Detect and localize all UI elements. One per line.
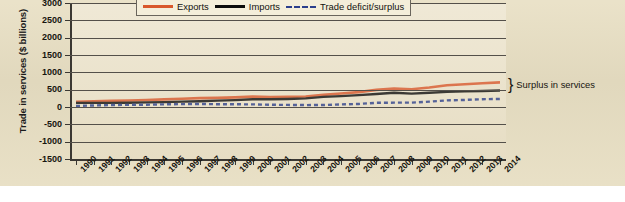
- chart-legend: Exports Imports Trade deficit/surplus: [136, 0, 411, 16]
- gridline: [70, 107, 506, 108]
- y-axis-tick-label: -500: [28, 119, 62, 129]
- gridline: [70, 20, 506, 21]
- y-axis-tick: [65, 124, 70, 125]
- gridline: [70, 142, 506, 143]
- gridline: [70, 38, 506, 39]
- page-margin: [0, 186, 625, 202]
- y-axis-tick-label: 500: [28, 84, 62, 94]
- legend-swatch-deficit-icon: [286, 6, 316, 8]
- surplus-annotation-label: Surplus in services: [516, 79, 595, 90]
- legend-label-imports: Imports: [249, 1, 280, 12]
- legend-swatch-imports-icon: [215, 5, 245, 8]
- y-axis-tick: [65, 3, 70, 4]
- legend-item-imports: Imports: [215, 1, 280, 12]
- y-axis-tick: [65, 20, 70, 21]
- chart-figure: Trade in services ($ billions) 300025002…: [0, 0, 625, 202]
- y-axis-tick-label: 2000: [28, 32, 62, 42]
- legend-item-exports: Exports: [143, 1, 209, 12]
- y-axis-tick-label: 0: [28, 102, 62, 112]
- y-axis-tick-label: 1500: [28, 50, 62, 60]
- y-axis-tick-label: 3000: [28, 0, 62, 8]
- y-axis-tick: [65, 107, 70, 108]
- y-axis-tick-label: 1000: [28, 67, 62, 77]
- y-axis-tick: [65, 142, 70, 143]
- y-axis-tick: [65, 90, 70, 91]
- y-axis-line: [70, 3, 72, 159]
- y-axis-tick: [65, 38, 70, 39]
- legend-label-exports: Exports: [177, 1, 209, 12]
- gridline: [70, 55, 506, 56]
- legend-swatch-exports-icon: [143, 5, 173, 8]
- gridline: [70, 124, 506, 125]
- y-axis-tick: [65, 55, 70, 56]
- y-axis-tick: [65, 72, 70, 73]
- y-axis-tick-label: 2500: [28, 15, 62, 25]
- plot-area: [70, 3, 506, 159]
- gridline: [70, 72, 506, 73]
- gridline: [70, 90, 506, 91]
- legend-label-trade-deficit-surplus: Trade deficit/surplus: [320, 1, 404, 12]
- y-axis-tick-label: -1000: [28, 136, 62, 146]
- x-axis-tick: [76, 160, 77, 165]
- y-axis-tick-label: -1500: [28, 154, 62, 164]
- surplus-annotation: } Surplus in services: [508, 79, 595, 90]
- legend-item-trade-deficit-surplus: Trade deficit/surplus: [286, 1, 404, 12]
- plot-background: [70, 3, 506, 159]
- brace-icon: }: [508, 80, 513, 90]
